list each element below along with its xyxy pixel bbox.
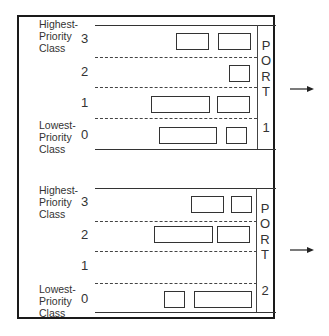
class-divider <box>95 283 257 284</box>
port-divider <box>257 25 258 149</box>
packet <box>151 96 210 113</box>
class-3-number: 3 <box>81 194 88 209</box>
port-number: 2 <box>258 283 272 298</box>
port-number: 1 <box>259 120 273 135</box>
class-divider <box>95 251 257 252</box>
packet <box>217 226 250 243</box>
class-1-number: 1 <box>81 258 88 273</box>
class-divider <box>95 87 257 88</box>
packet <box>217 96 250 113</box>
label-line: Priority <box>39 131 76 143</box>
packet <box>218 33 251 50</box>
right-arrow-icon <box>290 85 314 93</box>
class-2-number: 2 <box>81 64 88 79</box>
port-divider <box>256 188 257 312</box>
port-label-letter: T <box>258 247 272 262</box>
label-line: Priority <box>39 196 78 208</box>
label-line: Lowest- <box>39 119 76 131</box>
label-line: Highest- <box>39 18 78 30</box>
packet <box>191 196 224 213</box>
class-divider <box>95 57 257 58</box>
packet <box>194 291 252 308</box>
port-label-letter: O <box>259 53 273 68</box>
packet <box>164 291 185 308</box>
lowest-priority-label: Lowest- Priority Class <box>39 119 76 155</box>
label-line: Highest- <box>39 184 78 196</box>
class-0-number: 0 <box>81 127 88 142</box>
port-label-letter: P <box>258 201 272 216</box>
class-1-number: 1 <box>81 95 88 110</box>
label-line: Priority <box>39 30 78 42</box>
highest-priority-label: Highest- Priority Class <box>39 18 78 54</box>
packet <box>176 33 209 50</box>
right-arrow-icon <box>290 246 314 254</box>
class-3-number: 3 <box>81 31 88 46</box>
queue-top-line <box>95 188 276 189</box>
queue-bottom-line <box>95 149 276 150</box>
highest-priority-label: Highest- Priority Class <box>39 184 78 220</box>
port-label-letter: O <box>258 216 272 231</box>
queue-bottom-line <box>95 312 276 313</box>
class-2-number: 2 <box>81 227 88 242</box>
label-line: Class <box>39 143 76 155</box>
switch-frame <box>17 15 275 319</box>
class-divider <box>95 118 257 119</box>
class-divider <box>95 221 257 222</box>
packet <box>154 226 213 243</box>
class-0-number: 0 <box>81 291 88 306</box>
packet <box>159 127 217 144</box>
label-line: Class <box>39 42 78 54</box>
port-label-letter: R <box>258 232 272 247</box>
lowest-priority-label: Lowest- Priority Class <box>39 283 76 319</box>
packet <box>229 65 250 82</box>
port-label-letter: R <box>259 69 273 84</box>
packet <box>226 127 247 144</box>
label-line: Lowest- <box>39 283 76 295</box>
queue-top-line <box>95 25 276 26</box>
port-label-letter: P <box>259 38 273 53</box>
port-label-letter: T <box>259 84 273 99</box>
packet <box>231 196 252 213</box>
label-line: Priority <box>39 295 76 307</box>
label-line: Class <box>39 208 78 220</box>
label-line: Class <box>39 307 76 319</box>
